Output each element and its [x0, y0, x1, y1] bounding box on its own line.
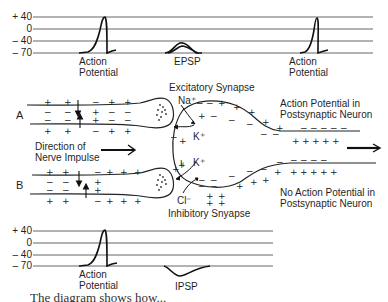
top-label-action-potential-1: ActionPotential	[79, 56, 118, 78]
no-action-potential-postsynaptic-label: No Action Potential inPostsynaptic Neuro…	[280, 187, 375, 209]
bottom-chart-gridlines	[33, 231, 273, 266]
top-label-action-potential-2: ActionPotential	[289, 56, 328, 78]
vesicles	[156, 104, 167, 191]
top-tick-minus40: – 40	[4, 36, 32, 46]
axon-b-label: B	[16, 180, 23, 191]
direction-of-nerve-impulse-label: Direction ofNerve Impulse	[35, 141, 99, 163]
ion-cl-label: Cl⁻	[177, 195, 191, 206]
ion-k-label-1: K⁺	[193, 131, 205, 142]
top-tick-minus70: – 70	[4, 48, 32, 58]
excitatory-synapse-label: Excitatory Synapse	[169, 82, 255, 93]
bottom-tick-minus70: – 70	[4, 261, 32, 271]
top-label-epsp: EPSP	[174, 56, 201, 67]
bottom-tick-plus40: + 40	[4, 226, 32, 236]
top-tick-plus40: + 40	[4, 12, 32, 22]
ion-k-label-2: K⁺	[193, 157, 205, 168]
bottom-label-action-potential: ActionPotential	[79, 269, 118, 291]
current-label: Iᵢ	[180, 158, 184, 169]
top-chart-traces	[79, 17, 328, 53]
caption-fragment: The diagram shows how...	[30, 290, 166, 302]
bottom-tick-minus40: – 40	[4, 250, 32, 260]
bottom-label-ipsp: IPSP	[175, 281, 198, 292]
axon-a-label: A	[16, 110, 23, 121]
inhibitory-synapse-label: Inhibitory Snyapse	[168, 208, 250, 219]
ion-na-label: Na⁺	[178, 95, 196, 106]
bottom-tick-0: 0	[4, 238, 32, 248]
action-potential-postsynaptic-label: Action Potential inPostsynaptic Neuron	[280, 98, 372, 120]
top-tick-0: 0	[4, 24, 32, 34]
top-chart-gridlines	[33, 17, 373, 53]
